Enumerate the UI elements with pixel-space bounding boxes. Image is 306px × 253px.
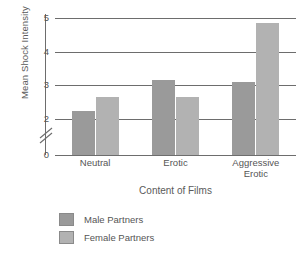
legend-item-female: Female Partners <box>59 228 154 246</box>
bar-neutral-male <box>72 111 95 155</box>
legend-swatch-icon <box>59 213 74 226</box>
gridline-5 <box>55 18 296 19</box>
bar-aggressive-erotic-female <box>256 23 279 155</box>
x-tick-neutral: Neutral <box>80 157 111 168</box>
legend-label: Male Partners <box>84 214 143 225</box>
axis-break-icon <box>37 122 55 148</box>
bar-aggressive-erotic-male <box>232 82 255 155</box>
plot-area: 02345 NeutralEroticAggressive Erotic <box>55 14 296 155</box>
bar-neutral-female <box>96 97 119 155</box>
chart-figure: Mean Shock Intensity 02345 NeutralErotic… <box>0 0 306 253</box>
y-tick-2: 2 <box>44 114 49 124</box>
y-tick-3: 3 <box>44 81 49 91</box>
y-tick-4: 4 <box>44 47 49 57</box>
x-tick-erotic: Erotic <box>163 157 187 168</box>
gridline-0 <box>55 155 296 156</box>
chart-legend: Male PartnersFemale Partners <box>59 210 154 246</box>
legend-swatch-icon <box>59 231 74 244</box>
legend-label: Female Partners <box>84 232 154 243</box>
y-axis-title: Mean Shock Intensity <box>19 0 30 123</box>
legend-item-male: Male Partners <box>59 210 154 228</box>
y-tick-0: 0 <box>44 150 49 160</box>
x-axis-title: Content of Films <box>55 185 296 196</box>
bar-erotic-female <box>176 97 199 155</box>
y-tick-5: 5 <box>44 13 49 23</box>
x-tick-aggressive-erotic: Aggressive Erotic <box>232 157 279 179</box>
bar-erotic-male <box>152 80 175 155</box>
